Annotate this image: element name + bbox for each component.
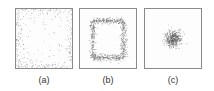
- panel-b-label: (b): [79, 75, 137, 85]
- panel-b-ring-distribution: [79, 8, 137, 69]
- panel-c-center-cluster: [144, 8, 202, 69]
- panel-a-edge-distribution: [15, 8, 73, 69]
- scatter-plot-c: [145, 9, 201, 68]
- scatter-plot-a: [16, 9, 72, 68]
- panel-c-label: (c): [144, 75, 202, 85]
- scatter-plot-b: [80, 9, 136, 68]
- panel-a-label: (a): [15, 75, 73, 85]
